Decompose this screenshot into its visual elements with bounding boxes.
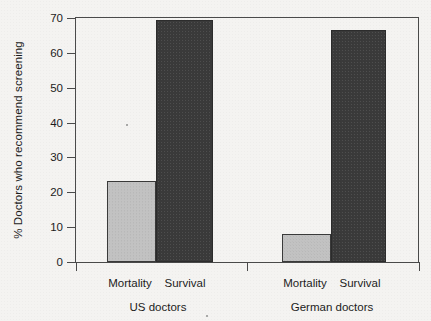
y-tick-70 bbox=[67, 18, 76, 19]
x-label-german-mortality: Mortality bbox=[283, 277, 326, 289]
x-label-german-survival: Survival bbox=[340, 277, 381, 289]
y-tick-label-70: 70 bbox=[50, 12, 63, 24]
group-label-german-doctors: German doctors bbox=[291, 301, 373, 313]
x-tick-left bbox=[76, 262, 77, 271]
bar-us-mortality bbox=[107, 181, 156, 262]
bar-chart-figure: % Doctors who recommend screening 70 60 … bbox=[0, 0, 431, 321]
y-tick-30 bbox=[67, 157, 76, 158]
x-label-us-survival: Survival bbox=[165, 277, 206, 289]
y-tick-label-20: 20 bbox=[50, 186, 63, 198]
y-tick-label-50: 50 bbox=[50, 82, 63, 94]
y-tick-label-10: 10 bbox=[50, 221, 63, 233]
y-tick-0 bbox=[67, 262, 76, 263]
x-tick-right bbox=[419, 262, 420, 271]
y-tick-10 bbox=[67, 227, 76, 228]
scan-speck bbox=[126, 124, 128, 126]
y-tick-60 bbox=[67, 53, 76, 54]
x-tick-mid bbox=[247, 262, 248, 271]
y-axis-title-text: % Doctors who recommend screening bbox=[12, 41, 24, 239]
bar-german-mortality bbox=[282, 234, 331, 262]
group-label-us-doctors: US doctors bbox=[130, 301, 187, 313]
x-label-us-mortality: Mortality bbox=[108, 277, 151, 289]
y-tick-label-40: 40 bbox=[50, 117, 63, 129]
scan-speck bbox=[206, 315, 208, 317]
plot-area: 70 60 50 40 30 20 10 0 bbox=[75, 17, 419, 263]
y-tick-label-30: 30 bbox=[50, 151, 63, 163]
y-tick-20 bbox=[67, 192, 76, 193]
y-axis-title: % Doctors who recommend screening bbox=[8, 0, 28, 280]
bar-us-survival bbox=[156, 20, 213, 262]
y-tick-50 bbox=[67, 88, 76, 89]
y-tick-label-60: 60 bbox=[50, 47, 63, 59]
bar-german-survival bbox=[331, 30, 386, 262]
y-tick-label-0: 0 bbox=[57, 256, 63, 268]
y-tick-40 bbox=[67, 123, 76, 124]
